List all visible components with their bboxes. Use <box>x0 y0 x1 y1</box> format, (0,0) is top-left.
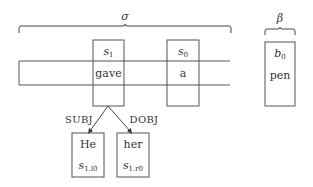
b0-word: pen <box>265 70 295 81</box>
stack-brace <box>19 24 231 33</box>
s0-word: a <box>167 68 199 79</box>
dobj-arc-label: DOBJ <box>126 115 162 125</box>
diagram-canvas <box>0 0 313 187</box>
s1-word: gave <box>93 68 124 79</box>
child-her-symbol: s1.r0 <box>117 160 149 173</box>
child-her-word: her <box>117 139 149 150</box>
buffer-brace <box>265 27 295 35</box>
s0-symbol: s0 <box>167 46 199 59</box>
b0-symbol: b0 <box>265 48 295 61</box>
child-he-word: He <box>72 139 104 150</box>
subj-arc-label: SUBJ <box>63 115 95 125</box>
stack-label: σ <box>118 11 132 22</box>
s1-symbol: s1 <box>93 46 124 59</box>
buffer-label: β <box>273 13 287 24</box>
child-he-symbol: s1.l0 <box>72 160 104 173</box>
